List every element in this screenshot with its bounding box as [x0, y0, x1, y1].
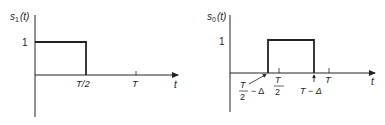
ylabel-s1: s1(t): [10, 11, 29, 23]
signal-diagram: s1(t) 1 T/2 T t s0(t) 1 T 2 T t T 2 − Δ: [0, 0, 385, 125]
xlabel-t: t: [371, 76, 375, 87]
pulse-s0: [268, 40, 314, 73]
svg-text:2: 2: [275, 87, 280, 97]
level-label: 1: [219, 36, 225, 47]
tick-label-T-half: T 2: [274, 75, 284, 97]
tick-label-T: T: [325, 74, 332, 85]
xlabel-t: t: [174, 79, 178, 90]
plot-s1: s1(t) 1 T/2 T t: [10, 11, 178, 117]
tick-label-T: T: [132, 78, 139, 89]
ylabel-s0: s0(t): [207, 11, 226, 23]
annotation-pulse-start: T 2 − Δ: [239, 75, 266, 103]
svg-text:T − Δ: T − Δ: [300, 86, 322, 96]
svg-text:2: 2: [240, 92, 245, 102]
svg-text:T: T: [240, 80, 247, 90]
svg-text:T: T: [275, 75, 282, 85]
plot-s0: s0(t) 1 T 2 T t T 2 − Δ T − Δ: [207, 11, 375, 112]
tick-label-T-half: T/2: [76, 78, 90, 89]
svg-text:− Δ: − Δ: [251, 86, 264, 96]
level-label: 1: [22, 37, 28, 48]
pulse-s1: [35, 42, 86, 75]
annotation-pulse-end: T − Δ: [300, 75, 322, 96]
